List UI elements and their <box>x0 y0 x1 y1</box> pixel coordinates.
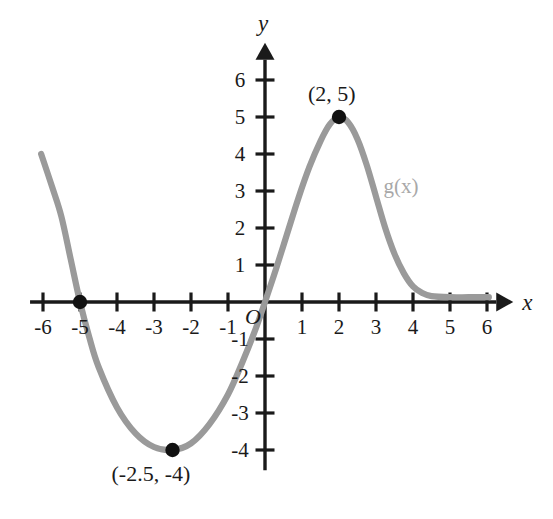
curve-function-label: g(x) <box>383 176 418 197</box>
x-tick-label: -3 <box>145 317 163 338</box>
y-tick-label: -1 <box>231 329 249 350</box>
x-tick-label: 3 <box>371 317 382 338</box>
coordinate-plane-svg <box>0 0 553 519</box>
marked-point-minimum <box>165 443 179 457</box>
origin-label: O <box>245 306 261 328</box>
x-axis-label: x <box>522 291 532 314</box>
x-tick-label: 5 <box>445 317 456 338</box>
x-tick-label: 6 <box>482 317 493 338</box>
x-axis-arrow <box>496 293 513 312</box>
y-tick-label: 5 <box>235 107 246 128</box>
y-tick-label: 6 <box>235 70 246 91</box>
y-tick-label: -2 <box>231 366 249 387</box>
y-axis-label: y <box>258 12 268 35</box>
x-tick-label: -2 <box>182 317 200 338</box>
marked-point-maximum <box>332 110 346 124</box>
x-tick-label: -4 <box>108 317 126 338</box>
y-axis-arrow <box>256 43 275 60</box>
y-tick-label: 4 <box>235 144 246 165</box>
maximum-point-label: (2, 5) <box>308 83 356 105</box>
x-tick-label: 4 <box>408 317 419 338</box>
y-tick-label: 3 <box>235 181 246 202</box>
y-tick-label: -4 <box>231 440 249 461</box>
y-tick-label: 1 <box>235 255 246 276</box>
axes-group <box>30 43 513 471</box>
x-tick-label: -5 <box>71 317 89 338</box>
x-tick-label: -6 <box>34 317 52 338</box>
graph-figure: y x O (2, 5) (-2.5, -4) g(x) -6-5-4-3-2-… <box>0 0 553 519</box>
y-tick-label: 2 <box>235 218 246 239</box>
x-tick-label: 2 <box>334 317 345 338</box>
y-tick-label: -3 <box>231 403 249 424</box>
x-tick-label: 1 <box>297 317 308 338</box>
marked-point-x-intercept <box>73 295 87 309</box>
minimum-point-label: (-2.5, -4) <box>112 463 191 485</box>
